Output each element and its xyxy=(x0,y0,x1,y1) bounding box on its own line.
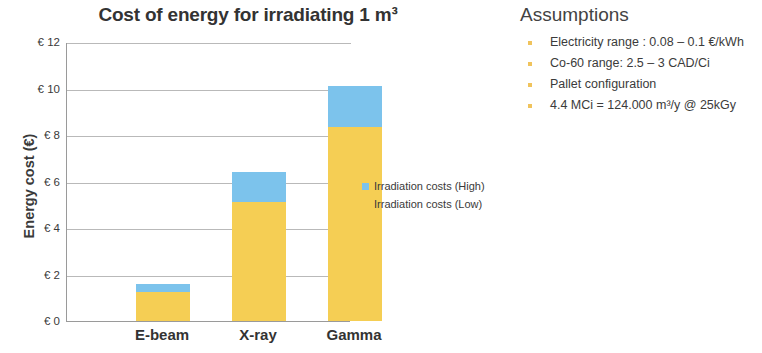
assumption-text: Pallet configuration xyxy=(550,77,656,91)
assumption-text: Electricity range : 0.08 – 0.1 €/kWh xyxy=(550,35,744,49)
y-axis-tick-label: € 10 xyxy=(14,83,60,95)
gridline xyxy=(67,229,351,230)
legend-item[interactable]: Irradiation costs (High) xyxy=(362,180,485,192)
chart-title: Cost of energy for irradiating 1 m³ xyxy=(48,4,448,26)
bullet-icon xyxy=(528,83,532,87)
y-axis-tick-label: € 0 xyxy=(14,315,60,327)
bar-segment-high[interactable] xyxy=(328,86,382,127)
legend-label: Irradiation costs (High) xyxy=(374,180,485,192)
gridline xyxy=(67,276,351,277)
bar-segment-high[interactable] xyxy=(136,284,190,292)
chart-panel: Cost of energy for irradiating 1 m³ Ener… xyxy=(0,0,505,353)
x-axis-tick-label: Gamma xyxy=(294,326,414,343)
gridline xyxy=(67,136,351,137)
gridline xyxy=(67,43,351,44)
y-axis-tick-label: € 4 xyxy=(14,222,60,234)
bar-segment-low[interactable] xyxy=(328,127,382,321)
y-axis-tick-label: € 8 xyxy=(14,129,60,141)
bar-segment-high[interactable] xyxy=(232,172,286,202)
legend-item[interactable]: Irradiation costs (Low) xyxy=(362,198,485,210)
bullet-icon xyxy=(528,62,532,66)
gridline xyxy=(67,183,351,184)
y-axis-tick-label: € 12 xyxy=(14,36,60,48)
plot-area xyxy=(66,43,350,322)
legend-swatch-icon xyxy=(362,183,369,190)
assumptions-panel: Assumptions Electricity range : 0.08 – 0… xyxy=(512,0,762,353)
assumptions-list: Electricity range : 0.08 – 0.1 €/kWhCo-6… xyxy=(520,32,762,116)
assumptions-heading: Assumptions xyxy=(520,4,629,26)
y-axis-tick-labels: € 0€ 2€ 4€ 6€ 8€ 10€ 12 xyxy=(10,43,60,322)
assumption-item: Pallet configuration xyxy=(520,74,762,95)
assumption-item: Co-60 range: 2.5 – 3 CAD/Ci xyxy=(520,53,762,74)
bullet-icon xyxy=(528,41,532,45)
bar-segment-low[interactable] xyxy=(232,202,286,321)
bar-segment-low[interactable] xyxy=(136,292,190,321)
y-axis-tick-label: € 6 xyxy=(14,176,60,188)
bullet-icon xyxy=(528,104,532,108)
assumption-item: Electricity range : 0.08 – 0.1 €/kWh xyxy=(520,32,762,53)
y-axis-tick-label: € 2 xyxy=(14,269,60,281)
legend-label: Irradiation costs (Low) xyxy=(374,198,482,210)
chart-page: Cost of energy for irradiating 1 m³ Ener… xyxy=(0,0,762,353)
gridline xyxy=(67,90,351,91)
legend-swatch-icon xyxy=(362,201,369,208)
assumption-item: 4.4 MCi = 124.000 m³/y @ 25kGy xyxy=(520,95,762,116)
assumption-text: 4.4 MCi = 124.000 m³/y @ 25kGy xyxy=(550,98,736,112)
assumption-text: Co-60 range: 2.5 – 3 CAD/Ci xyxy=(550,56,710,70)
chart-legend: Irradiation costs (High)Irradiation cost… xyxy=(362,180,485,216)
